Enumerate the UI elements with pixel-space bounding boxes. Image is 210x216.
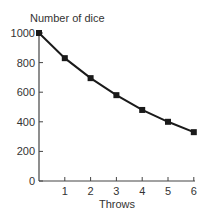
- x-axis-ticks: 123456: [62, 177, 197, 197]
- line-chart: Number of dice 02004006008001000 123456 …: [0, 0, 210, 216]
- data-point-marker: [165, 119, 171, 125]
- y-tick-label: 200: [17, 145, 35, 157]
- y-tick-label: 0: [29, 175, 35, 187]
- y-tick-label: 600: [17, 86, 35, 98]
- data-markers: [36, 30, 197, 135]
- data-point-marker: [62, 55, 68, 61]
- x-tick-label: 3: [113, 185, 119, 197]
- data-line: [39, 33, 194, 132]
- y-tick-label: 400: [17, 116, 35, 128]
- data-point-marker: [113, 92, 119, 98]
- y-axis-title: Number of dice: [30, 12, 105, 24]
- data-point-marker: [139, 107, 145, 113]
- x-axis-title: Throws: [99, 198, 136, 210]
- data-point-marker: [191, 129, 197, 135]
- x-tick-label: 2: [88, 185, 94, 197]
- x-tick-label: 5: [165, 185, 171, 197]
- x-tick-label: 6: [191, 185, 197, 197]
- data-point-marker: [36, 30, 42, 36]
- data-point-marker: [88, 75, 94, 81]
- y-axis-ticks: 02004006008001000: [11, 27, 43, 187]
- x-tick-label: 4: [139, 185, 145, 197]
- y-tick-label: 1000: [11, 27, 35, 39]
- y-tick-label: 800: [17, 57, 35, 69]
- x-tick-label: 1: [62, 185, 68, 197]
